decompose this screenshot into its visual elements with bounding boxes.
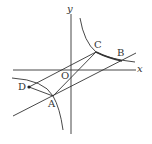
point-d-dot <box>27 85 30 88</box>
diagram-graphics <box>0 0 152 144</box>
point-c-label: C <box>94 40 102 50</box>
segment-ac <box>53 52 96 96</box>
y-axis-label: y <box>67 4 73 14</box>
coordinate-diagram: y x O A B C D <box>0 0 152 144</box>
origin-label: O <box>61 71 69 81</box>
point-d-label: D <box>18 82 26 92</box>
x-axis-label: x <box>137 64 143 74</box>
point-b-label: B <box>117 48 124 58</box>
line-ab <box>13 53 136 116</box>
hyperbola-branch-upper <box>80 18 135 62</box>
point-a-label: A <box>48 99 55 109</box>
